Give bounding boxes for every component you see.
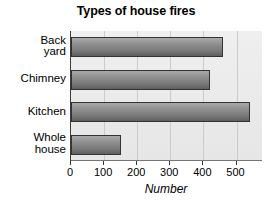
bar-chart: Types of house fires 0100200300400500 Ba… xyxy=(0,0,272,202)
x-axis-tick-label: 100 xyxy=(86,166,120,178)
x-axis-tick xyxy=(202,161,203,165)
y-axis-category-line: Chimney xyxy=(0,73,66,85)
bar-back-yard xyxy=(71,37,223,57)
y-axis-category-chimney: Chimney xyxy=(0,73,66,85)
y-axis-category-back-yard: Backyard xyxy=(0,35,66,58)
bar-kitchen xyxy=(71,102,250,122)
x-axis-tick xyxy=(136,161,137,165)
chart-title: Types of house fires xyxy=(0,4,272,18)
bar-whole-house xyxy=(71,135,121,155)
y-axis-category-line: Kitchen xyxy=(0,106,66,118)
x-axis-tick-label: 300 xyxy=(152,166,186,178)
x-axis-tick-label: 0 xyxy=(53,166,87,178)
bar-chimney xyxy=(71,70,210,90)
x-axis-tick xyxy=(70,161,71,165)
x-axis-label: Number xyxy=(70,182,262,196)
y-axis-category-kitchen: Kitchen xyxy=(0,106,66,118)
x-axis-tick-label: 500 xyxy=(219,166,253,178)
x-axis-tick-label: 400 xyxy=(185,166,219,178)
x-axis-tick xyxy=(103,161,104,165)
y-axis-category-whole-house: Wholehouse xyxy=(0,132,66,155)
x-axis-tick-label: 200 xyxy=(119,166,153,178)
plot-area xyxy=(70,31,262,161)
y-axis-category-line: house xyxy=(0,144,66,156)
x-axis-tick xyxy=(236,161,237,165)
y-axis-category-line: yard xyxy=(0,46,66,58)
x-axis-tick xyxy=(169,161,170,165)
